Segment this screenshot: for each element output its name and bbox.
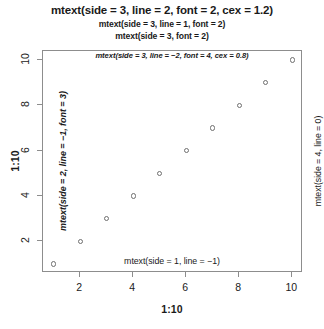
data-point [131,193,136,198]
plot-subtitle-line1: mtext(side = 3, line = 1, font = 2) [0,19,324,29]
plot-canvas: mtext(side = 3, line = 2, font = 2, cex … [0,0,324,329]
x-axis-tick-label: 8 [223,281,253,293]
y-axis-tick [37,195,42,196]
y-axis-tick [37,240,42,241]
data-point [78,239,83,244]
plot-main-title: mtext(side = 3, line = 2, font = 2, cex … [0,4,324,16]
x-axis-tick-label: 6 [170,281,200,293]
x-axis-tick-label: 2 [64,281,94,293]
y-axis-tick [37,104,42,105]
inner-annotation-top: mtext(side = 3, line = −2, font = 4, cex… [42,50,302,62]
x-axis-tick [291,272,292,277]
y-axis-title: 1:10 [9,50,21,272]
data-point-layer [43,51,301,271]
data-point [210,125,215,130]
outer-annotation-right: mtext(side = 4, line = 0) [313,50,323,272]
plot-area [42,50,302,272]
x-axis-tick-label: 4 [117,281,147,293]
y-axis-tick [37,150,42,151]
y-axis-tick [37,59,42,60]
inner-annotation-left: mtext(side = 2, line = −1, font = 3) [58,50,68,272]
x-axis-tick [132,272,133,277]
x-axis-tick [185,272,186,277]
data-point [237,103,242,108]
data-point [157,171,162,176]
x-axis-tick-label: 10 [276,281,306,293]
data-point [184,148,189,153]
data-point [263,80,268,85]
x-axis-tick [79,272,80,277]
plot-subtitle-line2: mtext(side = 3, font = 2) [0,31,324,41]
data-point [104,216,109,221]
x-axis-title: 1:10 [42,303,302,315]
inner-annotation-bottom: mtext(side = 1, line = −1) [42,256,302,266]
x-axis-tick [238,272,239,277]
